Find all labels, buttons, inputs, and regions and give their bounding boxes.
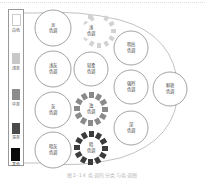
tone-bright: 明亮 色调 — [127, 42, 135, 54]
tone-light-grayish: 浅灰 色调 — [49, 63, 57, 75]
figure-caption: 图2-14 色调的分类与色调图 — [0, 171, 205, 178]
tone-grayish: 灰 色调 — [49, 104, 57, 116]
tone-dull: 浊 色调 — [87, 103, 95, 115]
tone-dark: 暗 色调 — [87, 142, 95, 154]
tone-dark-grayish: 暗灰 色调 — [49, 144, 57, 156]
tone-pale: 淡 色调 — [49, 22, 57, 34]
tone-vivid: 鲜艳 色调 — [166, 83, 174, 95]
tone-deep: 深 色调 — [127, 122, 135, 134]
tone-diagram — [0, 0, 205, 179]
tone-strong: 强烈 色调 — [127, 81, 135, 93]
tone-soft: 轻柔 色调 — [87, 63, 95, 75]
tone-light: 浅 色调 — [87, 25, 95, 37]
